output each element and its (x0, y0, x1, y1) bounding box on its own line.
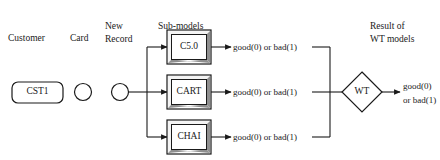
header-result-line1: Result of (370, 20, 405, 32)
node-card-shape (75, 84, 92, 101)
edge-label-c50-out: good(0) or bad(1) (233, 41, 297, 53)
output-label-line1: good(0) (403, 80, 432, 93)
node-wt-label: WT (342, 86, 382, 96)
node-c50-label: C5.0 (167, 41, 211, 51)
header-customer: Customer (8, 32, 45, 44)
diagram-canvas: Customer Card New Record Sub-models Resu… (0, 0, 440, 160)
output-label-line2: or bad(1) (403, 94, 436, 107)
header-sub-models: Sub-models (158, 20, 203, 32)
header-card: Card (70, 32, 88, 44)
node-new-record-shape (112, 84, 129, 101)
header-new-record-line1: New (105, 20, 123, 32)
edge-label-cart-out: good(0) or bad(1) (233, 86, 297, 98)
header-result-line2: WT models (370, 33, 414, 45)
node-chai-label: CHAI (167, 131, 211, 141)
header-new-record-line2: Record (105, 33, 132, 45)
edge-label-chai-out: good(0) or bad(1) (233, 131, 297, 143)
node-cart-label: CART (167, 86, 211, 96)
node-customer-label: CST1 (12, 86, 63, 96)
